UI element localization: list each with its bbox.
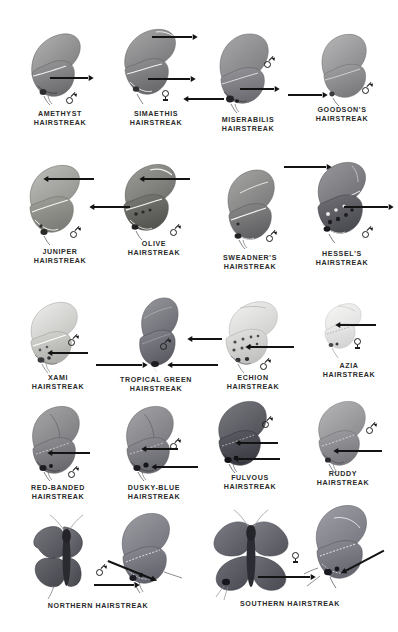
pointer-arrow-echion-1 <box>192 338 222 340</box>
butterfly-xami <box>22 300 96 374</box>
label-southern: SOUTHERN HAIRSTREAK <box>215 600 365 609</box>
pointer-arrow-goodsons-1 <box>288 94 322 96</box>
pointer-arrow-miserabilis-1 <box>188 98 224 100</box>
pointer-arrow-simaethis-2 <box>148 78 190 80</box>
pointer-arrow-azia-1 <box>340 324 376 326</box>
butterfly-northern-ventral <box>112 510 184 594</box>
butterfly-juniper <box>22 162 98 246</box>
pointer-arrow-echion-2 <box>250 346 294 348</box>
label-azia: AZIA HAIRSTREAK <box>289 362 398 380</box>
sex-symbol-female-southern <box>292 552 304 564</box>
butterfly-echion <box>216 300 292 374</box>
specimen-group-miserabilis: MISERABILIS HAIRSTREAK <box>192 32 304 146</box>
butterfly-sweadners <box>218 168 292 250</box>
sex-symbol-male-amethyst <box>66 92 78 104</box>
sex-symbol-male-echion <box>260 358 272 370</box>
butterfly-northern-dorsal <box>24 514 108 600</box>
specimen-group-azia: AZIA HAIRSTREAK <box>306 302 392 398</box>
pointer-arrow-ruddy-1 <box>338 450 382 452</box>
pointer-arrow-simaethis-1 <box>152 36 192 38</box>
specimen-group-ruddy: RUDDY HAIRSTREAK <box>294 400 392 496</box>
sex-symbol-male-red-banded <box>68 466 80 478</box>
butterfly-tropical-green <box>124 296 190 372</box>
pointer-arrow-hessels-1 <box>284 166 326 168</box>
pointer-arrow-tropical-green-1 <box>96 364 142 366</box>
pointer-arrow-northern-2 <box>94 584 134 586</box>
butterfly-southern-ventral <box>306 502 382 590</box>
sex-symbol-male-sweadners <box>266 230 278 242</box>
pointer-arrow-olive-1 <box>144 178 190 180</box>
sex-symbol-female-azia <box>354 338 366 350</box>
butterfly-simaethis <box>118 26 194 106</box>
label-northern: NORTHERN HAIRSTREAK <box>23 602 173 611</box>
sex-symbol-male-northern <box>96 564 108 576</box>
butterfly-miserabilis <box>210 32 286 114</box>
pointer-arrow-dusky-blue-2 <box>156 466 198 468</box>
sex-symbol-male-goodsons <box>362 82 374 94</box>
sex-symbol-male-miserabilis <box>264 56 276 68</box>
butterfly-southern-dorsal <box>206 510 296 602</box>
specimen-group-northern: NORTHERN HAIRSTREAK <box>8 508 190 626</box>
sex-symbol-male-hessels <box>362 226 374 238</box>
specimen-group-goodsons: GOODSON'S HAIRSTREAK <box>294 32 390 142</box>
butterfly-ruddy <box>310 400 380 474</box>
butterfly-amethyst <box>24 30 98 106</box>
label-ruddy: RUDDY HAIRSTREAK <box>283 470 398 488</box>
pointer-arrow-xami-1 <box>52 352 88 354</box>
pointer-arrow-olive-2 <box>94 206 130 208</box>
pointer-arrow-red-banded-1 <box>52 452 90 454</box>
sex-symbol-male-dusky-blue <box>170 438 182 450</box>
sex-symbol-male-xami <box>68 334 80 346</box>
pointer-arrow-southern-1 <box>258 576 310 578</box>
label-hessels: HESSEL'S HAIRSTREAK <box>282 250 398 268</box>
specimen-group-echion: ECHION HAIRSTREAK <box>198 300 308 400</box>
sex-symbol-male-ruddy <box>366 422 378 434</box>
pointer-arrow-fulvous-1 <box>240 442 278 444</box>
sex-symbol-male-fulvous <box>262 416 274 428</box>
sex-symbol-male-olive <box>170 224 182 236</box>
pointer-arrow-juniper-1 <box>48 178 94 180</box>
sex-symbol-male-juniper <box>70 226 82 238</box>
specimen-group-southern: SOUTHERN HAIRSTREAK <box>198 502 388 626</box>
sex-symbol-male-tropical-green <box>160 338 172 350</box>
butterfly-fulvous <box>210 400 284 474</box>
specimen-group-juniper: JUNIPER HAIRSTREAK <box>8 162 112 276</box>
butterfly-azia <box>316 302 368 362</box>
butterfly-red-banded <box>24 404 96 482</box>
butterfly-olive <box>116 162 194 242</box>
label-goodsons: GOODSON'S HAIRSTREAK <box>282 106 398 124</box>
pointer-arrow-miserabilis-2 <box>240 88 274 90</box>
pointer-arrow-hessels-2 <box>344 206 388 208</box>
sex-symbol-female-simaethis <box>162 90 174 102</box>
pointer-arrow-amethyst-1 <box>50 77 88 79</box>
pointer-arrow-fulvous-2 <box>238 458 280 460</box>
specimen-group-hessels: HESSEL'S HAIRSTREAK <box>292 158 392 276</box>
